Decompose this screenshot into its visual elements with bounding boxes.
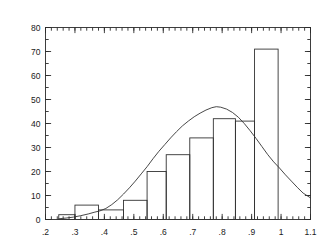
x-axis-tick-label: .4: [101, 227, 108, 237]
histogram-bar: [166, 155, 190, 220]
histogram-bar: [255, 49, 279, 219]
chart-canvas: .2.3.4.5.6.7.8.911.1 01020304050607080: [0, 0, 330, 247]
density-curve: [59, 107, 311, 219]
y-axis-tick-label: 0: [36, 215, 41, 225]
x-axis-major-ticks: [46, 28, 311, 220]
histogram-bar: [235, 121, 254, 219]
histogram-bar: [124, 200, 148, 219]
y-axis-major-ticks: [46, 28, 311, 220]
y-axis-tick-label: 60: [31, 71, 41, 81]
y-axis-tick-label: 70: [31, 47, 41, 57]
x-axis-tick-labels: .2.3.4.5.6.7.8.911.1: [42, 227, 317, 237]
x-axis-tick-label: .6: [160, 227, 167, 237]
y-axis-tick-label: 40: [31, 119, 41, 129]
axis-frame: [46, 28, 311, 220]
x-axis-tick-label: .7: [189, 227, 196, 237]
x-axis-tick-label: .5: [130, 227, 137, 237]
x-axis-tick-label: .3: [71, 227, 78, 237]
x-axis-tick-label: 1.1: [305, 227, 317, 237]
histogram-bars: [59, 49, 278, 219]
y-axis-tick-label: 10: [31, 191, 41, 201]
y-axis-tick-label: 80: [31, 23, 41, 33]
y-axis-tick-label: 30: [31, 143, 41, 153]
y-axis-tick-label: 50: [31, 95, 41, 105]
x-axis-tick-label: 1: [279, 227, 284, 237]
histogram-bar: [147, 172, 166, 220]
x-axis-tick-label: .2: [42, 227, 49, 237]
x-axis-tick-label: .8: [219, 227, 226, 237]
histogram-bar: [190, 138, 214, 220]
y-axis-tick-label: 20: [31, 167, 41, 177]
y-axis-minor-ticks: [46, 28, 311, 220]
x-axis-tick-label: .9: [248, 227, 255, 237]
histogram-bar: [213, 119, 235, 220]
density-curve-path: [59, 107, 311, 219]
x-axis-minor-ticks: [46, 28, 311, 220]
histogram-figure: .2.3.4.5.6.7.8.911.1 01020304050607080: [0, 0, 330, 247]
y-axis-tick-labels: 01020304050607080: [31, 23, 41, 225]
histogram-bar: [99, 210, 124, 220]
